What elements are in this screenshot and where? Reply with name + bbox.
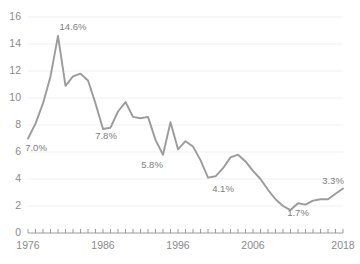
x-tick-label-2018: 2018: [331, 239, 355, 251]
y-tick-label-2: 2: [15, 199, 21, 211]
y-tick-label-8: 8: [15, 118, 21, 130]
x-axis-tick-labels: 19761986199620062018: [16, 239, 355, 251]
label-1976: 7.0%: [25, 142, 47, 153]
label-peak-1980: 14.6%: [60, 21, 87, 32]
y-tick-label-16: 16: [9, 10, 21, 22]
chart-canvas: 0246810121416 19761986199620062018 7.0%1…: [0, 0, 360, 264]
x-axis: [28, 229, 343, 233]
y-tick-label-10: 10: [9, 91, 21, 103]
y-tick-label-4: 4: [15, 172, 21, 184]
label-2011: 1.7%: [287, 207, 309, 218]
x-tick-label-1986: 1986: [91, 239, 115, 251]
label-2000: 4.1%: [212, 183, 234, 194]
label-1994: 5.8%: [141, 159, 163, 170]
y-tick-label-14: 14: [9, 37, 21, 49]
x-tick-label-1996: 1996: [166, 239, 190, 251]
data-point-annotations: 7.0%14.6%7.8%5.8%4.1%1.7%3.3%: [25, 21, 344, 218]
x-tick-label-2006: 2006: [241, 239, 265, 251]
y-tick-label-12: 12: [9, 64, 21, 76]
label-2018: 3.3%: [322, 175, 344, 186]
line-chart: 0246810121416 19761986199620062018 7.0%1…: [0, 0, 360, 264]
gridlines: [28, 17, 343, 206]
y-tick-label-6: 6: [15, 145, 21, 157]
label-1987: 7.8%: [95, 130, 117, 141]
x-tick-label-1976: 1976: [16, 239, 40, 251]
unemployment-rate-line: [28, 36, 343, 210]
y-axis-tick-labels: 0246810121416: [9, 10, 21, 238]
y-tick-label-0: 0: [15, 226, 21, 238]
